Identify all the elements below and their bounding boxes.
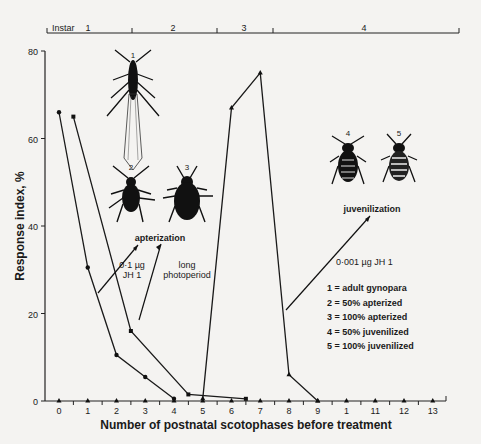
long-photoperiod-label: long xyxy=(178,260,195,270)
data-point-circle xyxy=(86,265,90,269)
data-point-circle xyxy=(114,353,118,357)
data-point-triangle xyxy=(287,398,292,403)
x-tick-label: 7 xyxy=(258,406,263,416)
y-tick-label: 40 xyxy=(28,222,38,232)
x-tick-label: 4 xyxy=(171,406,176,416)
x-tick-label: 0 xyxy=(56,406,61,416)
insect-number-label: 4 xyxy=(346,129,351,138)
series-line xyxy=(203,73,318,401)
x-tick-label: 3 xyxy=(143,406,148,416)
legend-entry: 1 = adult gynopara xyxy=(327,283,408,293)
legend: 1 = adult gynopara2 = 50% apterized3 = 1… xyxy=(327,283,414,351)
data-point-triangle xyxy=(287,372,292,377)
data-point-triangle xyxy=(143,398,148,403)
juvenilization-label: juvenilization xyxy=(342,204,400,214)
data-point-circle xyxy=(57,110,61,114)
x-tick-label: 13 xyxy=(428,406,438,416)
apterization-label: apterization xyxy=(135,233,186,243)
x-tick-label: 1 xyxy=(85,406,90,416)
x-tick-label: 6 xyxy=(229,406,234,416)
legend-entry: 4 = 50% juvenilized xyxy=(327,327,409,337)
legend-entry: 5 = 100% juvenilized xyxy=(327,341,414,351)
data-point-triangle xyxy=(229,398,234,403)
y-tick-label: 60 xyxy=(28,135,38,145)
insect-2-half-apterized-icon xyxy=(109,166,155,222)
x-axis-label: Number of postnatal scotophases before t… xyxy=(100,418,391,432)
y-tick-label: 20 xyxy=(28,310,38,320)
y-tick-label: 80 xyxy=(28,47,38,57)
annotations: apterization0·1 µgJH 1longphotoperiodjuv… xyxy=(98,51,402,320)
data-point-triangle xyxy=(258,70,263,75)
data-point-triangle xyxy=(373,398,378,403)
instar-bar: Instar1234 xyxy=(47,23,459,33)
insect-illustrations xyxy=(107,50,417,222)
insect-number-label: 3 xyxy=(185,163,190,172)
instar-segment-label: 3 xyxy=(241,23,246,33)
instar-segment-label: 2 xyxy=(170,23,175,33)
y-axis-label: Response index, % xyxy=(13,171,27,281)
x-tick-label: 2 xyxy=(114,406,119,416)
x-tick-label: 1 xyxy=(344,406,349,416)
data-point-triangle xyxy=(114,398,119,403)
insect-4-half-juvenilized-icon xyxy=(330,136,366,184)
x-tick-label: 8 xyxy=(286,406,291,416)
series-line xyxy=(73,117,246,399)
x-tick-label: 12 xyxy=(399,406,409,416)
insect-5-juvenilized-icon xyxy=(381,134,417,182)
insect-3-apterized-icon xyxy=(163,166,213,222)
x-tick-label: 11 xyxy=(371,406,380,416)
insect-number-label: 2 xyxy=(129,163,134,172)
data-point-triangle xyxy=(402,398,407,403)
response-index-chart: Instar1234 02040608001234567891111213Num… xyxy=(0,0,481,444)
dose-high-label: 0·1 µg xyxy=(119,260,145,270)
instar-segment-label: 1 xyxy=(85,23,90,33)
insect-1-adult-gynopara-icon xyxy=(107,50,159,170)
x-tick-label: 5 xyxy=(200,406,205,416)
insect-number-label: 1 xyxy=(131,51,136,60)
data-point-triangle xyxy=(344,398,349,403)
x-tick-label: 9 xyxy=(315,406,320,416)
instar-label: Instar xyxy=(52,23,75,33)
data-point-square xyxy=(244,397,248,401)
data-point-triangle xyxy=(430,398,435,403)
instar-segment-label: 4 xyxy=(361,23,366,33)
dose-low-label: 0·001 µg JH 1 xyxy=(336,257,393,267)
data-point-triangle xyxy=(57,398,62,403)
legend-entry: 2 = 50% apterized xyxy=(327,298,402,308)
data-point-square xyxy=(129,329,133,333)
data-point-square xyxy=(71,115,75,119)
long-photoperiod-label: photoperiod xyxy=(163,270,211,280)
data-point-triangle xyxy=(258,398,263,403)
data-point-square xyxy=(186,392,190,396)
dose-high-label: JH 1 xyxy=(123,270,142,280)
data-point-triangle xyxy=(85,398,90,403)
data-point-circle xyxy=(143,375,147,379)
legend-entry: 3 = 100% apterized xyxy=(327,312,407,322)
y-tick-label: 0 xyxy=(33,397,38,407)
data-series xyxy=(57,70,436,403)
axes: 02040608001234567891111213Number of post… xyxy=(13,47,446,432)
insect-number-label: 5 xyxy=(397,129,402,138)
